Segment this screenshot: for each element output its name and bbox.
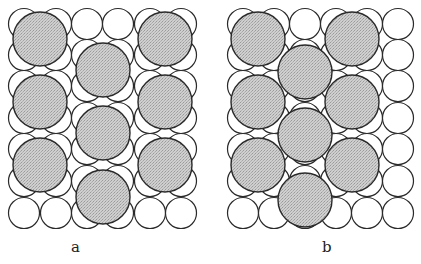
- large-atom-circle: [325, 12, 379, 66]
- large-atom-circle: [231, 75, 285, 129]
- large-atom-circle: [138, 75, 192, 129]
- large-atom-circle: [76, 170, 130, 224]
- packing-diagram: [0, 0, 421, 264]
- large-atom-circle: [76, 106, 130, 160]
- small-atom-circle: [290, 9, 321, 40]
- small-atom-circle: [166, 198, 197, 229]
- large-atom-circle: [325, 75, 379, 129]
- small-atom-circle: [383, 40, 414, 71]
- large-atom-circle: [278, 173, 332, 227]
- panel-b: [228, 9, 414, 229]
- small-atom-circle: [228, 198, 259, 229]
- large-atom-circle: [13, 12, 67, 66]
- large-atom-circle: [13, 138, 67, 192]
- large-atom-circle: [278, 45, 332, 99]
- large-circles-layer: [13, 12, 192, 224]
- large-atom-circle: [76, 43, 130, 97]
- small-atom-circle: [383, 166, 414, 197]
- panel-a: [9, 9, 197, 229]
- small-atom-circle: [41, 198, 72, 229]
- large-atom-circle: [325, 138, 379, 192]
- small-atom-circle: [383, 103, 414, 134]
- small-atom-circle: [103, 9, 134, 40]
- small-atom-circle: [9, 198, 40, 229]
- large-atom-circle: [231, 12, 285, 66]
- panel-a-label: a: [71, 240, 80, 255]
- large-atom-circle: [13, 75, 67, 129]
- small-atom-circle: [72, 9, 103, 40]
- large-atom-circle: [278, 108, 332, 162]
- panel-b-label: b: [322, 240, 332, 255]
- large-atom-circle: [138, 138, 192, 192]
- large-atom-circle: [138, 12, 192, 66]
- small-atom-circle: [352, 198, 383, 229]
- small-atom-circle: [383, 9, 414, 40]
- small-atom-circle: [383, 71, 414, 102]
- small-atom-circle: [383, 134, 414, 165]
- large-atom-circle: [231, 138, 285, 192]
- small-atom-circle: [135, 198, 166, 229]
- small-atom-circle: [383, 198, 414, 229]
